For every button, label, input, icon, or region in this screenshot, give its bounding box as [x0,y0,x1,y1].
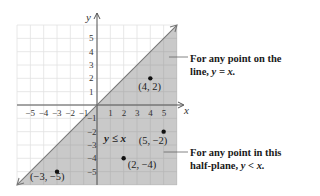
x-tick-label: 5 [162,108,167,118]
x-tick-label: 3 [135,108,140,118]
note2-math: y < x. [241,160,265,171]
note2-line1: For any point in this [190,146,281,159]
x-tick-label: 2 [122,108,127,118]
note1-prefix: line, [190,66,212,77]
x-tick-label: −2 [65,108,75,118]
y-tick-label: −4 [87,153,97,163]
point-marker [121,156,125,160]
y-tick-label: −3 [87,140,97,150]
point-label: (−3, −5) [30,171,65,183]
x-tick-label: −3 [52,108,62,118]
point-label: (2, −4) [128,159,157,171]
inequality-label: y ≤ x [102,132,126,144]
y-tick-label: 5 [89,33,94,43]
point-marker [148,76,152,80]
note1-line2: line, y = x. [190,65,281,78]
note2-line2: half-plane, y < x. [190,159,281,172]
x-tick-label: −5 [25,108,35,118]
annotation-half-plane: For any point in this half-plane, y < x. [190,146,281,172]
annotation-line-equality: For any point on the line, y = x. [190,52,281,78]
y-tick-label: 3 [89,60,94,70]
y-tick-label: −5 [87,167,97,177]
point-label: (5, −2) [139,135,168,147]
x-tick-label: 4 [148,108,153,118]
y-tick-label: 4 [89,47,94,57]
note1-math: y = x. [212,66,236,77]
x-tick-label: 1 [108,108,113,118]
y-tick-label: 1 [89,87,94,97]
note2-prefix: half-plane, [190,160,241,171]
y-tick-label: −2 [87,127,97,137]
x-axis-label: x [183,104,189,116]
x-tick-label: −4 [39,108,49,118]
y-tick-label: 2 [89,73,94,83]
point-marker [161,129,165,133]
point-label: (4, 2) [138,81,161,93]
y-tick-label: −1 [87,113,97,123]
y-axis-label: y [85,11,91,23]
note1-line1: For any point on the [190,52,281,65]
